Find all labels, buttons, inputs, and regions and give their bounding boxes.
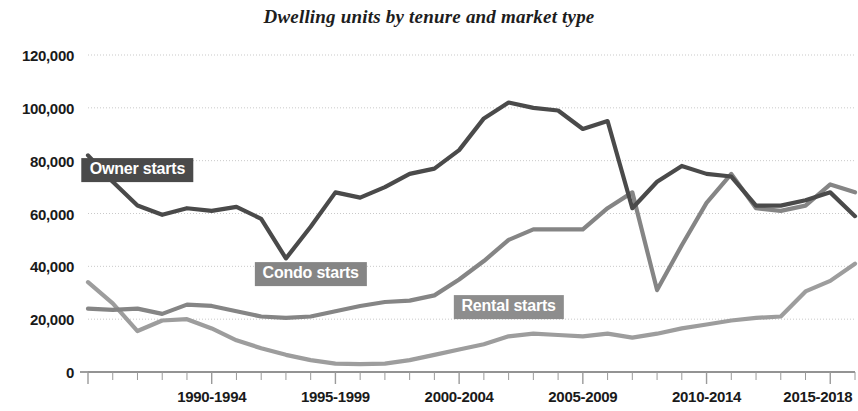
chart-root: Dwelling units by tenure and market type… bbox=[0, 0, 858, 411]
series-label-condo: Condo starts bbox=[255, 262, 367, 286]
series-labels: Owner startsCondo startsRental starts bbox=[0, 0, 858, 411]
series-label-rental: Rental starts bbox=[453, 295, 563, 319]
series-label-owner: Owner starts bbox=[82, 158, 193, 182]
